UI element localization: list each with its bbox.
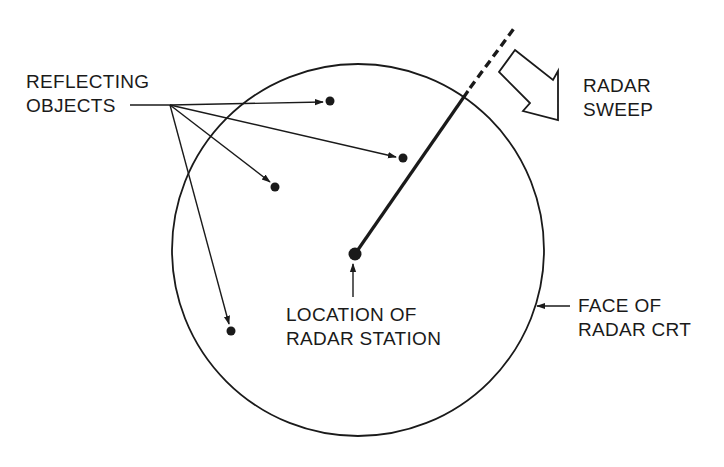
radar-station-dot xyxy=(349,248,362,261)
location-of-radar-station-label: LOCATION OF RADAR STATION xyxy=(286,303,441,351)
face-of-radar-crt-label: FACE OF RADAR CRT xyxy=(578,294,691,342)
arrow-to-object-1 xyxy=(170,102,323,105)
face-line-2: RADAR CRT xyxy=(578,318,691,342)
reflecting-object-dot xyxy=(399,154,408,163)
radar-sweep-line-2: SWEEP xyxy=(583,98,653,122)
reflecting-objects-line-1: REFLECTING xyxy=(26,70,149,94)
reflecting-objects-label: REFLECTING OBJECTS xyxy=(26,70,149,118)
radar-sweep-line-1: RADAR xyxy=(583,74,653,98)
arrow-to-object-4 xyxy=(170,105,229,324)
sweep-direction-arrow-icon xyxy=(499,50,558,120)
face-line-1: FACE OF xyxy=(578,294,691,318)
location-line-2: RADAR STATION xyxy=(286,327,441,351)
sweep-line xyxy=(355,91,468,254)
location-line-1: LOCATION OF xyxy=(286,303,441,327)
reflecting-object-dot xyxy=(271,183,280,192)
radar-sweep-label: RADAR SWEEP xyxy=(583,74,653,122)
reflecting-objects-line-2: OBJECTS xyxy=(26,94,149,118)
reflecting-object-dot xyxy=(326,97,335,106)
reflecting-object-dot xyxy=(227,327,236,336)
